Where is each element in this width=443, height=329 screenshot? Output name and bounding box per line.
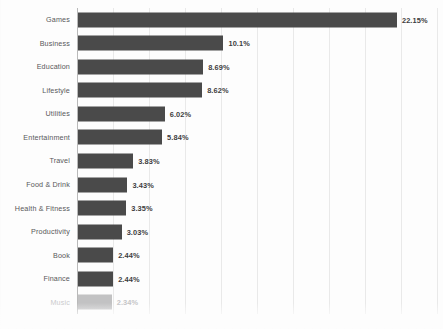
category-label: Music (0, 298, 70, 307)
bar (78, 36, 223, 51)
bar-row: Productivity3.03% (0, 220, 443, 244)
bar (78, 59, 203, 74)
bar-value-label: 8.62% (207, 86, 228, 95)
bar-row: Business10.1% (0, 32, 443, 56)
bar-value-label: 2.44% (118, 274, 139, 283)
bar (78, 224, 122, 239)
category-label: Travel (0, 156, 70, 165)
bar-row: Health & Fitness3.35% (0, 196, 443, 220)
category-label: Food & Drink (0, 180, 70, 189)
category-label: Health & Fitness (0, 204, 70, 213)
bar-value-label: 3.43% (132, 180, 153, 189)
bar (78, 130, 162, 145)
category-label: Utilities (0, 109, 70, 118)
category-label: Lifestyle (0, 86, 70, 95)
category-label: Business (0, 39, 70, 48)
bar-value-label: 2.34% (117, 298, 138, 307)
bar-row: Utilities6.02% (0, 102, 443, 126)
bar-row: Food & Drink3.43% (0, 173, 443, 197)
bar (78, 83, 202, 98)
bar-value-label: 2.44% (118, 251, 139, 260)
bar (78, 106, 165, 121)
bar-row: Lifestyle8.62% (0, 79, 443, 103)
bar-row: Entertainment5.84% (0, 126, 443, 150)
bar-value-label: 6.02% (170, 109, 191, 118)
category-label: Productivity (0, 227, 70, 236)
bar-rows: Games22.15%Business10.1%Education8.69%Li… (0, 8, 443, 314)
bar-value-label: 5.84% (167, 133, 188, 142)
bar-row: Education8.69% (0, 55, 443, 79)
category-label: Entertainment (0, 133, 70, 142)
bar (78, 271, 113, 286)
bar-value-label: 3.83% (138, 156, 159, 165)
category-label: Finance (0, 274, 70, 283)
bar (78, 201, 126, 216)
bar-row: Travel3.83% (0, 149, 443, 173)
category-label: Education (0, 62, 70, 71)
bar-row: Book2.44% (0, 243, 443, 267)
bar (78, 153, 133, 168)
bar-chart: Games22.15%Business10.1%Education8.69%Li… (0, 0, 443, 329)
bar (78, 248, 113, 263)
bar (78, 177, 127, 192)
bar-value-label: 3.35% (131, 204, 152, 213)
bar (78, 295, 112, 310)
bar-row: Games22.15% (0, 8, 443, 32)
bar-value-label: 3.03% (127, 227, 148, 236)
bar-value-label: 10.1% (228, 39, 249, 48)
category-label: Games (0, 15, 70, 24)
bar-row: Music2.34% (0, 290, 443, 314)
bar (78, 12, 397, 27)
category-label: Book (0, 251, 70, 260)
bar-row: Finance2.44% (0, 267, 443, 291)
bar-value-label: 22.15% (402, 15, 428, 24)
bar-value-label: 8.69% (208, 62, 229, 71)
